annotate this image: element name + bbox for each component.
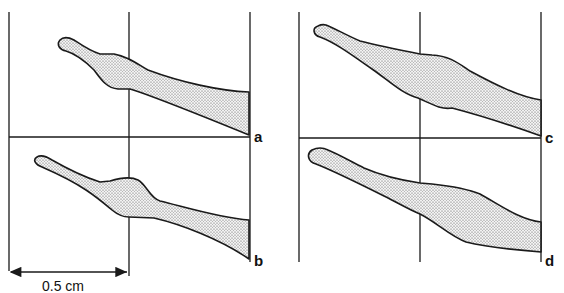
- shape-a: [58, 38, 249, 135]
- scale-bar-label: 0.5 cm: [42, 278, 84, 293]
- shape-b: [35, 156, 249, 259]
- diagram-figure: a b c d 0.5 cm: [0, 0, 564, 293]
- shape-d: [309, 148, 541, 252]
- panel-label-a: a: [254, 128, 263, 145]
- panel-label-d: d: [545, 252, 554, 269]
- panel-label-b: b: [254, 252, 263, 269]
- panel-label-c: c: [545, 129, 553, 146]
- shape-c: [314, 25, 541, 136]
- scale-bar: 0.5 cm: [11, 262, 129, 293]
